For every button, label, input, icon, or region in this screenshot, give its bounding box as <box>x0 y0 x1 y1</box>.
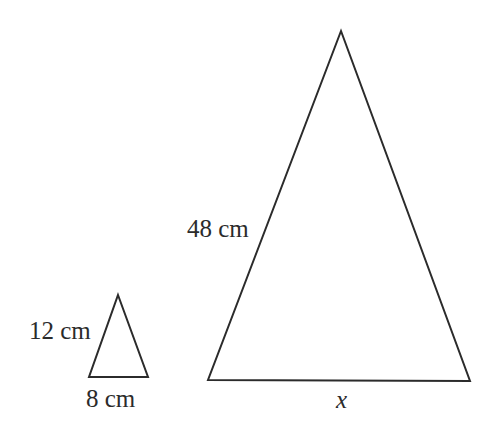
small-triangle <box>89 295 148 377</box>
large-triangle-base-label: x <box>336 387 347 412</box>
large-triangle <box>208 31 470 381</box>
figure-canvas: 12 cm 8 cm 48 cm x <box>0 0 488 439</box>
small-triangle-side-label: 12 cm <box>29 318 91 343</box>
large-triangle-side-label: 48 cm <box>187 216 249 241</box>
small-triangle-base-label: 8 cm <box>86 386 135 411</box>
